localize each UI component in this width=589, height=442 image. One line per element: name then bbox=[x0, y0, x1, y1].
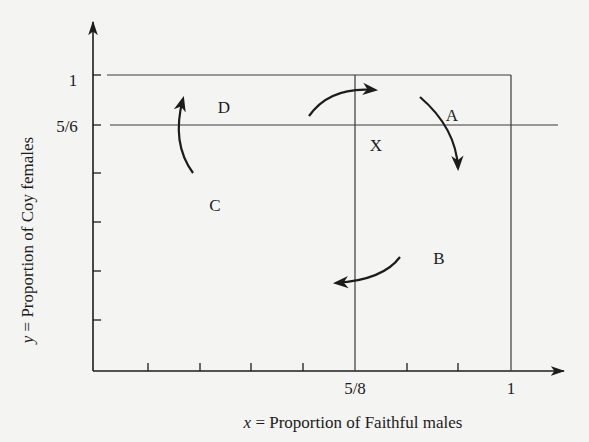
arrow-c-up bbox=[179, 99, 193, 173]
region-label-c: C bbox=[209, 196, 220, 215]
region-label-x: X bbox=[370, 136, 382, 155]
y-ticks bbox=[93, 75, 101, 320]
phase-diagram: 1 5/6 5/8 1 D A X C B x = Proportion of … bbox=[0, 0, 589, 442]
arrow-d-right bbox=[309, 90, 375, 116]
arrow-b-left bbox=[336, 257, 400, 283]
x-axis-title: x = Proportion of Faithful males bbox=[243, 413, 463, 432]
x-tick-label-5-8: 5/8 bbox=[344, 379, 366, 398]
x-tick-label-1: 1 bbox=[507, 379, 516, 398]
y-tick-label-5-6: 5/6 bbox=[56, 117, 78, 136]
region-label-a: A bbox=[446, 106, 459, 125]
y-axis-title: y = Proportion of Coy females bbox=[18, 137, 37, 345]
y-tick-label-1: 1 bbox=[69, 71, 78, 90]
region-label-d: D bbox=[218, 98, 230, 117]
x-ticks bbox=[148, 363, 458, 371]
region-label-b: B bbox=[433, 249, 444, 268]
